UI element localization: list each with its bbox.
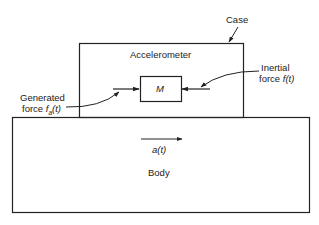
generated-force-line2: force fa(t)	[22, 103, 61, 118]
inertial-force-line2: force f(t)	[259, 73, 294, 84]
generated-force-leader	[66, 92, 119, 107]
mass-label: M	[156, 83, 164, 94]
accelerometer-label: Accelerometer	[130, 49, 191, 60]
inertial-force-word: force	[259, 73, 283, 84]
generated-force-arg: (t)	[52, 103, 61, 114]
acceleration-label: a(t)	[152, 144, 166, 155]
body-box	[13, 118, 310, 213]
accelerometer-diagram: Case Accelerometer M Generated force fa(…	[0, 0, 319, 225]
body-label: Body	[148, 167, 170, 178]
inertial-force-symbol: f(t)	[283, 73, 295, 84]
case-pointer-arrow	[229, 27, 238, 42]
generated-force-line1: Generated	[20, 92, 65, 103]
inertial-force-leader	[201, 71, 259, 87]
case-label: Case	[226, 14, 248, 25]
generated-force-word: force	[22, 103, 46, 114]
inertial-force-line1: Inertial	[261, 62, 290, 73]
